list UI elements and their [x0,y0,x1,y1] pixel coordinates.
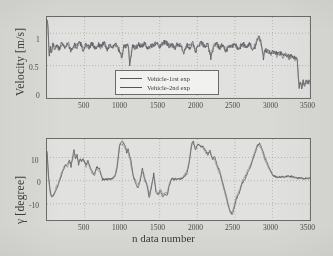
velocity-xtick-2000: 2000 [188,101,203,110]
legend-label-2: Vehicle-2nd exp [147,84,190,91]
gamma-xtick-2500: 2500 [225,223,240,232]
gamma-xtick-3500: 3500 [300,223,315,232]
velocity-ytick-05: 0.5 [29,63,38,72]
gamma-ytick-m10: -10 [29,201,39,210]
velocity-xtick-3000: 3000 [263,101,278,110]
gamma-x-axis-label: n data number [132,232,195,244]
legend-entry-2: Vehicle-2nd exp [120,83,214,92]
legend-entry-1: Vehicle-1rst exp [120,74,214,83]
gamma-plot-svg [47,139,310,220]
legend-line-icon-2 [120,87,142,88]
velocity-legend: Vehicle-1rst exp Vehicle-2nd exp [115,70,219,95]
gamma-traces [47,141,310,215]
gamma-xtick-1500: 1500 [150,223,165,232]
velocity-xtick-2500: 2500 [225,101,240,110]
gamma-y-axis-label: γ [degree] [14,176,26,224]
velocity-xtick-1000: 1000 [112,101,127,110]
legend-line-icon-1 [120,78,142,79]
velocity-ytick-1: 1 [36,35,40,44]
velocity-xtick-1500: 1500 [150,101,165,110]
velocity-ytick-0: 0 [36,91,40,100]
legend-label-1: Vehicle-1rst exp [147,75,190,82]
gamma-xtick-500: 500 [78,223,89,232]
velocity-xtick-3500: 3500 [300,101,315,110]
gamma-panel: γ [degree] 10 0 -10 500 1000 1500 2000 2… [0,128,333,256]
velocity-y-axis-label: Velocity [m/s] [14,28,26,96]
gamma-xtick-1000: 1000 [112,223,127,232]
velocity-xtick-500: 500 [78,101,89,110]
gamma-plot-area [46,138,311,221]
gamma-ytick-0: 0 [37,178,41,187]
velocity-panel: Velocity [m/s] 1 0.5 0 500 1000 1500 200… [0,0,333,128]
figure-container: Velocity [m/s] 1 0.5 0 500 1000 1500 200… [0,0,333,256]
gamma-xtick-2000: 2000 [188,223,203,232]
gamma-ytick-10: 10 [31,156,39,165]
gamma-xtick-3000: 3000 [263,223,278,232]
